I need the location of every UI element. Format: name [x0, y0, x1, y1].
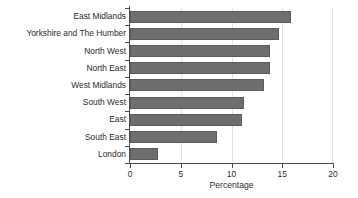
y-tick [125, 111, 130, 112]
y-axis-label-6: East [109, 115, 126, 124]
bar-chart: East Midlands Yorkshire and The Humber N… [0, 0, 358, 198]
x-tick-label-10: 10 [227, 170, 236, 179]
plot-area [130, 8, 333, 163]
bar-row [130, 146, 333, 163]
y-axis-label-3: North East [86, 64, 126, 73]
x-axis-title: Percentage [210, 180, 254, 190]
x-tick-label-15: 15 [278, 170, 287, 179]
y-axis-label-5: South West [83, 98, 126, 107]
x-tick [232, 164, 233, 168]
y-axis-label-1: Yorkshire and The Humber [26, 29, 126, 38]
y-axis-label-0: East Midlands [73, 12, 126, 21]
bar-row [130, 129, 333, 146]
bar-east [130, 114, 242, 126]
bar-south-west [130, 97, 244, 109]
x-tick-label-5: 5 [178, 170, 183, 179]
y-axis-label-2: North West [84, 47, 126, 56]
bar-row [130, 25, 333, 42]
y-tick [125, 129, 130, 130]
bar-row [130, 111, 333, 128]
bar-row [130, 8, 333, 25]
bar-north-west [130, 45, 270, 57]
bar-north-east [130, 62, 270, 74]
y-tick [125, 146, 130, 147]
bar-row [130, 77, 333, 94]
x-tick [130, 164, 131, 168]
y-tick [125, 94, 130, 95]
bar-row [130, 42, 333, 59]
bar-row [130, 60, 333, 77]
x-tick [181, 164, 182, 168]
bar-london [130, 148, 158, 160]
x-tick [333, 164, 334, 168]
x-tick-label-0: 0 [128, 170, 133, 179]
bar-west-midlands [130, 79, 264, 91]
x-tick [282, 164, 283, 168]
bar-yorkshire-and-the-humber [130, 28, 279, 40]
y-axis-label-7: South East [85, 133, 126, 142]
bar-south-east [130, 131, 217, 143]
y-tick [125, 60, 130, 61]
x-tick-label-20: 20 [328, 170, 337, 179]
y-axis-label-4: West Midlands [71, 81, 126, 90]
y-tick [125, 42, 130, 43]
bar-row [130, 94, 333, 111]
y-axis-label-8: London [98, 150, 126, 159]
y-axis-line [129, 6, 130, 164]
y-tick [125, 8, 130, 9]
bar-east-midlands [130, 11, 291, 23]
y-tick [125, 25, 130, 26]
y-tick [125, 77, 130, 78]
